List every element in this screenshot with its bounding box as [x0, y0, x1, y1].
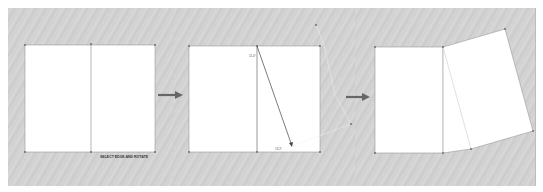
step-1-caption: SELECT EDGE AND ROTATE — [100, 155, 149, 159]
step-2-shape: 11.4° 13.2° — [188, 24, 352, 153]
right-arrow-icon — [158, 91, 183, 99]
right-arrow-icon — [346, 93, 370, 101]
angle-label-1: 11.4° — [249, 54, 257, 58]
step-1-shape: SELECT EDGE AND ROTATE — [24, 43, 156, 159]
angle-label-2: 13.2° — [275, 147, 283, 151]
step-3-shape — [374, 28, 534, 154]
diagram-overlay: SELECT EDGE AND ROTATE 11.4° 13.2° — [0, 0, 543, 192]
